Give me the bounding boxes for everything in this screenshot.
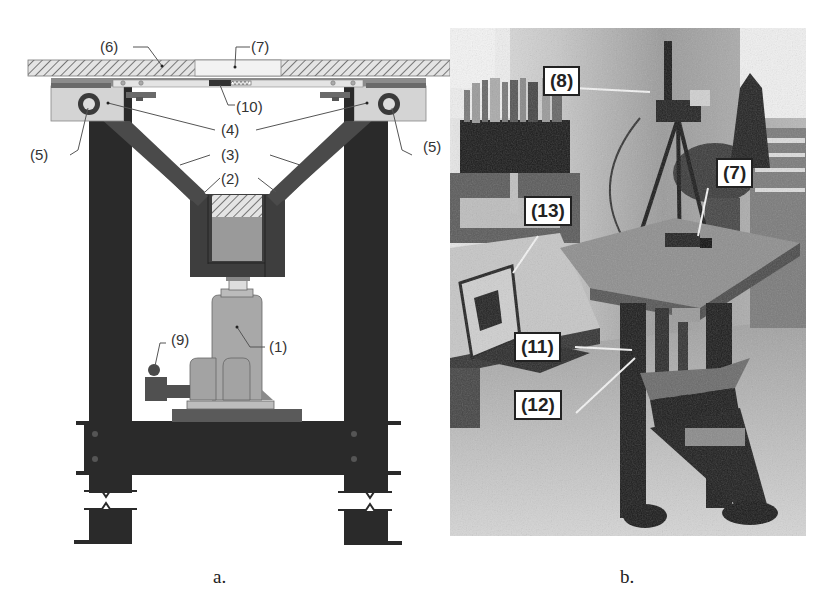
callout-13-laptop: (13) bbox=[524, 196, 572, 226]
caption-b: b. bbox=[620, 566, 634, 588]
label-2: (2) bbox=[221, 170, 239, 187]
photo-panel-b: (8) (7) (13) (11) (12) bbox=[450, 28, 806, 536]
label-6: (6) bbox=[100, 38, 118, 55]
jack-base bbox=[172, 409, 302, 422]
specimen bbox=[195, 60, 281, 76]
callout-11: (11) bbox=[514, 332, 561, 362]
label-7: (7) bbox=[251, 38, 269, 55]
label-5-left: (5) bbox=[30, 146, 48, 163]
schematic-panel-a: (6) (7) (10) (4) (3) (2) (5) (5) (1) (9)… bbox=[0, 0, 450, 606]
lab-photo bbox=[450, 28, 806, 536]
caption-a: a. bbox=[213, 566, 226, 588]
label-4: (4) bbox=[221, 121, 239, 138]
label-5-right: (5) bbox=[423, 138, 441, 155]
label-1: (1) bbox=[269, 338, 287, 355]
break-symbols bbox=[80, 491, 395, 511]
loading-block bbox=[190, 194, 285, 277]
pressure-sensor bbox=[145, 364, 190, 401]
callout-8-camera: (8) bbox=[543, 66, 580, 96]
label-9: (9) bbox=[171, 331, 189, 348]
hydraulic-jack bbox=[190, 276, 273, 400]
label-3: (3) bbox=[221, 146, 239, 163]
callout-7-specimen: (7) bbox=[716, 158, 753, 188]
callout-12: (12) bbox=[514, 390, 562, 420]
top-plate bbox=[28, 60, 450, 76]
schematic-drawing: (6) (7) (10) (4) (3) (2) (5) (5) (1) (9) bbox=[0, 0, 450, 606]
bottom-beam bbox=[76, 421, 401, 475]
label-10: (10) bbox=[236, 98, 263, 115]
